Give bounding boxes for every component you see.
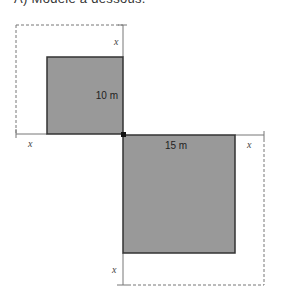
offset-label-bottom: x: [111, 264, 117, 275]
offset-label-left: x: [27, 138, 33, 149]
offset-label-right: x: [246, 139, 252, 150]
offset-label-top: x: [113, 36, 119, 47]
large-square: [123, 135, 235, 253]
square-diagram: 10 m 15 m x x x x: [0, 0, 281, 302]
junction-marker: [121, 132, 126, 137]
large-square-label: 15 m: [165, 140, 187, 151]
small-square-label: 10 m: [96, 90, 118, 101]
